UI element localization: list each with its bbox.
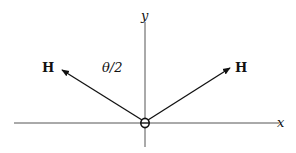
y-axis-label: y (140, 8, 149, 23)
diagram-canvas: y x H H θ/2 (0, 0, 296, 153)
origin-symbol-icon (141, 118, 149, 127)
x-axis-label: x (277, 115, 285, 130)
vector-label-left: H (42, 60, 54, 75)
vector-label-right: H (235, 60, 247, 75)
angle-label: θ/2 (102, 60, 122, 75)
vector-h-left (62, 70, 142, 120)
vector-h-right (148, 68, 230, 120)
